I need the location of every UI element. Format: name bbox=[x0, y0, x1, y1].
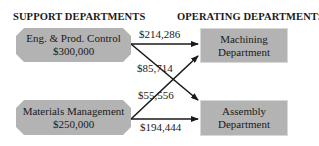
assembly-department-box: Assembly Department bbox=[200, 100, 288, 136]
machining-department-box: Machining Department bbox=[200, 28, 288, 63]
machining-name-line2: Department bbox=[218, 46, 270, 59]
eng-prod-control-box: Eng. & Prod. Control $300,000 bbox=[16, 28, 131, 62]
eng-prod-control-cost: $300,000 bbox=[53, 45, 94, 58]
allocation-eng-assembly-label: $85,714 bbox=[137, 62, 173, 74]
allocation-eng-machining-label: $214,286 bbox=[139, 28, 180, 40]
allocation-materials-machining-label: $55,556 bbox=[138, 89, 174, 101]
machining-name-line1: Machining bbox=[220, 33, 268, 46]
assembly-name-line2: Department bbox=[218, 118, 270, 131]
assembly-name-line1: Assembly bbox=[222, 105, 266, 118]
materials-management-cost: $250,000 bbox=[53, 118, 94, 131]
allocation-materials-assembly-label: $194,444 bbox=[140, 121, 181, 133]
materials-management-name: Materials Management bbox=[23, 105, 125, 118]
eng-prod-control-name: Eng. & Prod. Control bbox=[26, 32, 120, 45]
materials-management-box: Materials Management $250,000 bbox=[16, 100, 131, 135]
